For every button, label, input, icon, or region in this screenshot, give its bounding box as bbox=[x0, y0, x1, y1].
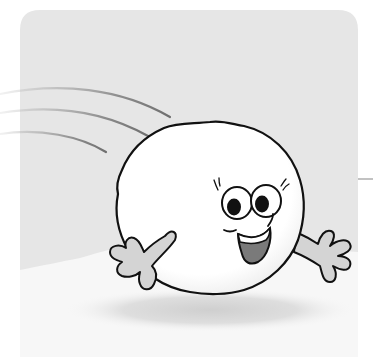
right-pupil bbox=[255, 196, 269, 213]
left-pupil bbox=[227, 199, 241, 216]
snowball-illustration bbox=[0, 0, 373, 357]
